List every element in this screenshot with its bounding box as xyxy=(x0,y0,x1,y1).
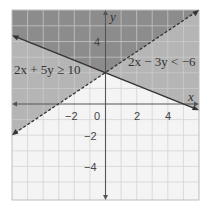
origin-label: 0 xyxy=(94,110,100,122)
x-tick-2: 2 xyxy=(134,110,140,122)
x-tick-neg2: −2 xyxy=(65,110,78,122)
inequality-graph: 2x + 5y ≥ 10 2x − 3y < −6 x y 0 −2 2 4 4… xyxy=(0,0,214,210)
x-tick-4: 4 xyxy=(165,110,171,122)
ineq1-label: 2x + 5y ≥ 10 xyxy=(14,62,80,77)
y-tick-4: 4 xyxy=(94,36,100,48)
y-axis-label: y xyxy=(108,9,116,24)
y-tick-neg2: −2 xyxy=(84,130,97,142)
ineq2-label: 2x − 3y < −6 xyxy=(128,54,196,69)
y-tick-neg4: −4 xyxy=(84,161,97,173)
x-axis-label: x xyxy=(187,89,194,104)
